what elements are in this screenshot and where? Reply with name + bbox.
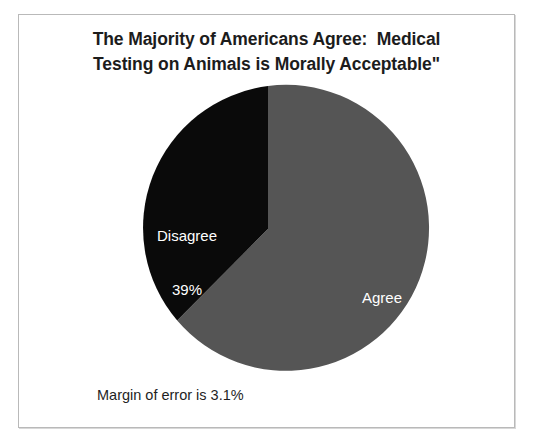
pie-svg — [19, 15, 516, 429]
pie-label-agree: Agree 61% — [335, 253, 429, 397]
pie-label-agree-name: Agree — [335, 289, 429, 307]
pie-label-disagree: Disagree 39% — [132, 191, 242, 335]
pie-label-agree-value: 61% — [335, 343, 429, 361]
pie-label-disagree-value: 39% — [132, 281, 242, 299]
margin-of-error-note: Margin of error is 3.1% — [97, 387, 244, 403]
pie-label-disagree-name: Disagree — [132, 227, 242, 245]
chart-card: The Majority of Americans Agree: Medical… — [18, 14, 515, 428]
pie-chart: Disagree 39% Agree 61% — [19, 15, 516, 429]
